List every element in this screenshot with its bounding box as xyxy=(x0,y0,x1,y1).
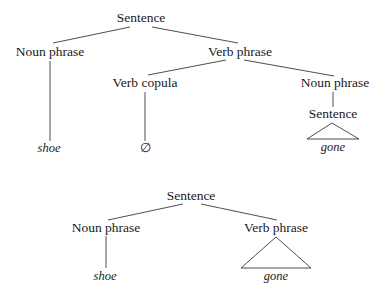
edge-vp-np2 xyxy=(244,60,334,76)
bottom-leaf-shoe: shoe xyxy=(94,270,117,283)
bottom-leaf-gone: gone xyxy=(264,270,288,283)
bottom-noun-phrase-node: Noun phrase xyxy=(72,221,141,235)
edge-b-s-vp xyxy=(201,204,277,220)
triangle-b-vp-gone xyxy=(241,237,311,268)
top-verb-copula-node: Verb copula xyxy=(113,76,178,90)
top-leaf-gone: gone xyxy=(321,141,345,154)
edge-vp-vc xyxy=(148,60,226,75)
top-verb-phrase-node: Verb phrase xyxy=(208,45,272,59)
top-noun-phrase-node: Noun phrase xyxy=(16,45,85,59)
bottom-sentence-node: Sentence xyxy=(167,189,216,203)
edge-s-vp xyxy=(152,27,238,43)
top-leaf-null: ∅ xyxy=(140,142,151,155)
top-noun-phrase-2-node: Noun phrase xyxy=(301,76,370,90)
top-leaf-shoe: shoe xyxy=(38,142,61,155)
edge-s-np xyxy=(53,27,130,43)
triangle-s-gone xyxy=(307,123,359,139)
bottom-verb-phrase-node: Verb phrase xyxy=(244,221,308,235)
top-embedded-sentence-node: Sentence xyxy=(309,107,358,121)
edge-b-s-np xyxy=(108,204,183,220)
top-sentence-node: Sentence xyxy=(117,11,166,25)
